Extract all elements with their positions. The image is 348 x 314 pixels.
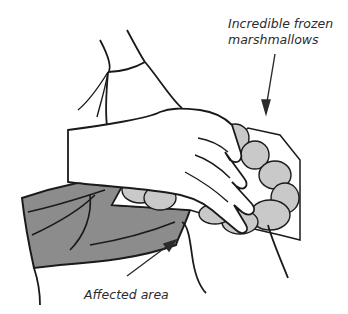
background-arm: [145, 62, 182, 108]
marshmallows-label: Incredible frozen marshmallows: [228, 16, 333, 48]
knee-outline: [182, 222, 206, 293]
background-arm: [100, 40, 110, 73]
wristband: [108, 62, 145, 72]
arrow-marshmallows: [262, 54, 275, 114]
affected-area-label: Affected area: [84, 287, 169, 303]
marshmallows-label-line2: marshmallows: [228, 32, 333, 48]
background-arm: [127, 30, 145, 62]
leg-lower: [34, 268, 40, 305]
marshmallows-label-line1: Incredible frozen: [228, 16, 333, 32]
